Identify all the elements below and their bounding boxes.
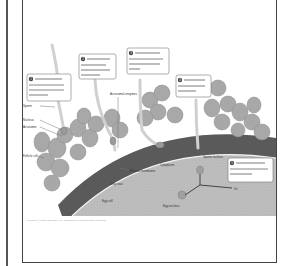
label-acrosomal-enzymes: Acrosomal enzymes [110, 92, 138, 96]
label-egg-cell: Egg cell [102, 199, 113, 203]
label-nucleus: Nucleus [23, 118, 34, 122]
fertilization-diagram: 1 The sperm squeezes through cells left … [0, 0, 291, 266]
label-cytoplasm: Cytoplasm [160, 163, 175, 167]
label-acrosome: Acrosome [23, 125, 37, 129]
label-sperm: Sperm [23, 104, 32, 108]
label-zygote: 2n [234, 187, 238, 191]
callout-3: 3 [127, 48, 169, 74]
label-sperm-nucleus: Sperm nucleus [203, 155, 224, 159]
label-jelly-coat: Jelly coat [110, 182, 123, 186]
callout-5: 5 [228, 158, 273, 182]
label-follicle-cell: Follicle cell [23, 154, 38, 158]
figure-credit: Copyright © Pearson Education, Inc., pub… [27, 219, 107, 222]
label-egg-nucleus: Egg nucleus [163, 204, 180, 208]
callout-1: 1 The sperm squeezes through cells left … [27, 74, 71, 101]
label-plasma-membrane: Plasma membrane [130, 169, 156, 173]
